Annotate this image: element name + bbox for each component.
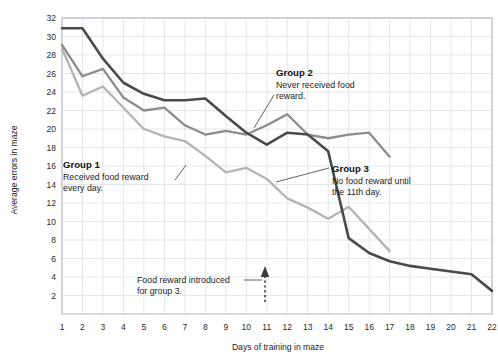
annotation-group-3-leader-line (276, 168, 329, 182)
y-axis-tick-label: 30 (47, 32, 57, 42)
y-axis-tick-label: 12 (47, 198, 57, 208)
food-reward-arrow-icon (261, 266, 269, 277)
x-axis-tick-label: 2 (80, 322, 85, 332)
grid-lines (62, 18, 492, 314)
x-axis-tick-label: 21 (467, 322, 477, 332)
annotation-group-3-line1: No food reward until (332, 176, 411, 186)
y-axis-tick-label: 18 (47, 143, 57, 153)
annotation-group-2-line2: reward. (276, 91, 305, 101)
x-axis-tick-label: 10 (242, 322, 252, 332)
annotation-food-reward-note: Food reward introduced for group 3. (137, 266, 269, 302)
x-axis-tick-label: 16 (364, 322, 374, 332)
y-axis-tick-label: 6 (51, 254, 56, 264)
x-axis-tick-label: 7 (182, 322, 187, 332)
line-chart-svg: 2468101214161820222426283032 12345678910… (0, 0, 498, 355)
x-axis-tick-label: 5 (142, 322, 147, 332)
y-axis-tick-label: 20 (47, 124, 57, 134)
x-axis-tick-label: 8 (203, 322, 208, 332)
annotation-group-1: Group 1 Received food reward every day. (63, 159, 186, 193)
chart-figure: 2468101214161820222426283032 12345678910… (0, 0, 498, 355)
y-axis-tick-label: 8 (51, 235, 56, 245)
y-axis-tick-label: 16 (47, 161, 57, 171)
x-axis-tick-label: 20 (446, 322, 456, 332)
food-reward-note-line2: for group 3. (137, 286, 182, 296)
y-axis-tick-label: 10 (47, 217, 57, 227)
y-axis-tick-label: 22 (47, 106, 57, 116)
y-axis-title: Average errors in maze (9, 125, 19, 214)
y-axis-tick-label: 32 (47, 13, 57, 23)
annotation-group-3: Group 3 No food reward until the 11th da… (276, 163, 411, 197)
x-axis-tick-label: 13 (303, 322, 313, 332)
food-reward-note-line1: Food reward introduced (137, 275, 230, 285)
x-axis-tick-label: 18 (405, 322, 415, 332)
x-axis-tick-label: 1 (60, 322, 65, 332)
annotation-group-1-leader-line (175, 165, 186, 180)
y-axis-tick-label: 28 (47, 50, 57, 60)
x-axis-tick-label: 6 (162, 322, 167, 332)
x-axis-tick-label: 12 (283, 322, 293, 332)
annotation-group-3-line2: the 11th day. (332, 187, 382, 197)
annotation-group-1-line1: Received food reward (63, 172, 149, 182)
annotation-group-3-title: Group 3 (332, 163, 369, 174)
x-axis-tick-label: 4 (121, 322, 126, 332)
y-axis-tick-label: 14 (47, 180, 57, 190)
annotation-group-2: Group 2 Never received food reward. (254, 67, 355, 128)
y-axis-tick-label: 2 (51, 291, 56, 301)
x-axis-tick-label: 17 (385, 322, 395, 332)
y-axis-tick-label: 26 (47, 69, 57, 79)
annotation-group-2-title: Group 2 (276, 67, 313, 78)
x-axis-tick-label: 14 (323, 322, 333, 332)
x-axis-tick-labels: 12345678910111213141516171819202122 (60, 322, 497, 332)
annotation-group-1-title: Group 1 (63, 159, 100, 170)
annotation-group-2-line1: Never received food (276, 80, 355, 90)
x-axis-tick-label: 19 (426, 322, 436, 332)
y-axis-tick-label: 24 (47, 87, 57, 97)
x-axis-tick-label: 11 (262, 322, 271, 332)
x-axis-tick-label: 9 (223, 322, 228, 332)
x-axis-tick-label: 22 (487, 322, 497, 332)
x-axis-tick-label: 15 (344, 322, 354, 332)
annotation-group-1-line2: every day. (63, 183, 103, 193)
x-axis-title: Days of training in maze (232, 342, 324, 352)
y-axis-tick-labels: 2468101214161820222426283032 (47, 13, 57, 301)
y-axis-tick-label: 4 (51, 272, 56, 282)
x-axis-tick-label: 3 (101, 322, 106, 332)
